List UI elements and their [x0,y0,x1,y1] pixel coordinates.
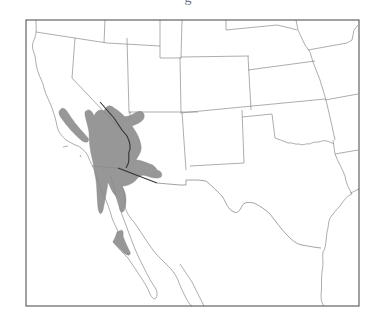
ut-wy-border [160,20,182,58]
ok-tx-panhandle [242,114,275,138]
tx-la-border [335,154,352,194]
red-river [275,138,334,145]
az-nm-border [182,112,186,170]
channel-island [63,146,68,147]
sd-ne-east-border [296,20,310,52]
mo-east [325,94,358,100]
species-range [59,106,162,255]
mexico-state-line [180,264,204,306]
ca-or-border [36,32,107,43]
sonora-coast [122,186,192,306]
map-frame [26,20,359,306]
ks-mo-border [310,52,335,140]
la-coast [350,189,359,193]
nv-or-idaho-border [107,43,160,46]
iowa-border [308,25,358,50]
texas-gulf-coast [321,194,352,306]
channel-island [80,155,81,157]
nm-tx-west-border [190,110,244,166]
nv-ut-border [127,38,131,113]
ne-north-border [226,20,297,30]
state-boundaries [36,20,359,306]
nm-mexico-border [157,180,206,185]
co-west-border [180,57,181,112]
idaho-wy-border [104,20,105,43]
ks-ok-border [180,99,325,113]
co-east-border [248,56,251,110]
ne-ks-border [248,61,315,70]
wy-south-border [181,56,249,57]
range-map [0,0,376,325]
rio-grande [206,181,321,248]
range-main [85,106,162,214]
ar-tx-border [333,140,358,154]
